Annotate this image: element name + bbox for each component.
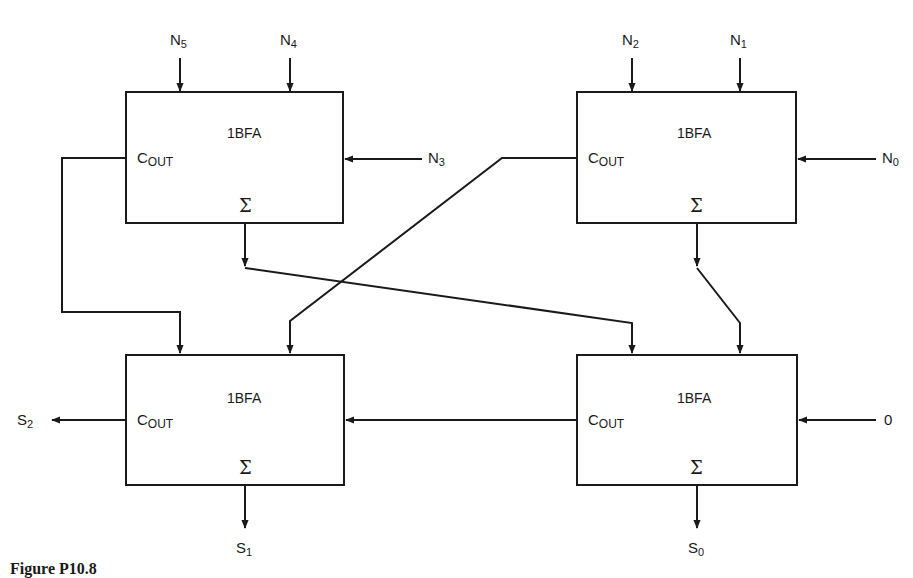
cout-label-top-left: COUT [137, 150, 173, 168]
cout-label-top-right: COUT [588, 150, 624, 168]
label-n0: N0 [882, 150, 899, 168]
block-title-top-left: 1BFA [227, 125, 261, 141]
label-s0: S0 [688, 540, 704, 558]
label-s2: S2 [17, 412, 33, 430]
label-n5: N5 [170, 32, 187, 50]
block-title-bottom-right: 1BFA [677, 390, 711, 406]
block-title-top-right: 1BFA [677, 125, 711, 141]
label-n4: N4 [280, 32, 297, 50]
label-n2: N2 [622, 32, 639, 50]
label-n1: N1 [730, 32, 747, 50]
cout-label-bottom-right: COUT [588, 412, 624, 430]
sum-label-top-right: Σ [690, 197, 703, 215]
sum-label-bottom-right: Σ [690, 459, 703, 477]
label-n3: N3 [428, 150, 445, 168]
wire-carry-tl-to-bl [62, 158, 180, 353]
sum-label-top-left: Σ [239, 197, 252, 215]
label-s1: S1 [236, 540, 252, 558]
cout-label-bottom-left: COUT [137, 412, 173, 430]
figure-caption: Figure P10.8 [10, 560, 97, 578]
wire-carry-tr-to-bl [290, 158, 577, 353]
wire-sum-tr-to-br [697, 268, 740, 353]
sum-label-bottom-left: Σ [239, 459, 252, 477]
label-zero-input: 0 [884, 412, 892, 427]
block-title-bottom-left: 1BFA [227, 390, 261, 406]
